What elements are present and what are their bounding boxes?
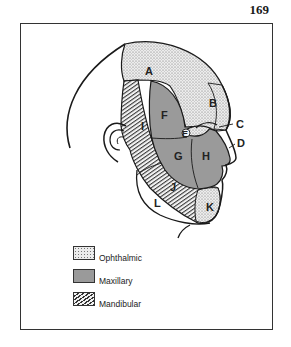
legend-label-mandibular: Mandibular <box>99 299 141 309</box>
ear-helix <box>117 137 123 144</box>
legend-item-ophthalmic: Ophthalmic <box>73 243 142 266</box>
label-F: F <box>161 109 168 121</box>
legend-item-maxillary: Maxillary <box>73 266 142 289</box>
label-L: L <box>154 197 161 209</box>
label-G: G <box>174 150 183 162</box>
label-C: C <box>236 118 244 130</box>
label-D: D <box>237 137 245 149</box>
legend: Ophthalmic Maxillary Mandibular <box>73 243 142 312</box>
label-K: K <box>206 201 214 213</box>
legend-label-ophthalmic: Ophthalmic <box>99 253 142 263</box>
legend-label-maxillary: Maxillary <box>99 276 133 286</box>
label-I: I <box>141 120 144 132</box>
maxillary-swatch-icon <box>73 269 95 283</box>
mandibular-swatch-icon <box>73 292 95 306</box>
label-E: E <box>182 129 188 139</box>
label-H: H <box>202 150 210 162</box>
label-A: A <box>145 65 153 77</box>
ophthalmic-swatch-icon <box>73 246 95 260</box>
label-J: J <box>170 181 176 193</box>
neck-line-front <box>178 225 190 238</box>
legend-item-mandibular: Mandibular <box>73 289 142 312</box>
label-B: B <box>209 97 217 109</box>
face-dermatome-diagram: A B C D E F G H I J K L <box>0 0 291 347</box>
head-outline-back <box>67 44 125 148</box>
